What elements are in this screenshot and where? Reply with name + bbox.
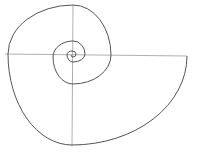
spiral-diagram: [0, 0, 197, 154]
